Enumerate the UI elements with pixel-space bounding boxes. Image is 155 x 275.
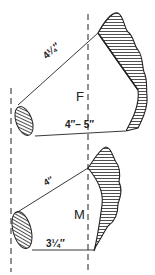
left-section-m [8,209,35,250]
label-f: F [76,90,84,103]
left-section-f [11,104,36,138]
label-m-lower-measure: 3¼″ [46,239,65,249]
diagram-canvas [0,0,155,275]
right-section-f [98,13,147,131]
figure-m [8,147,121,251]
label-m: M [74,208,85,221]
right-section-m [88,147,121,251]
label-f-lower-measure: 4″– 5″ [65,120,94,130]
